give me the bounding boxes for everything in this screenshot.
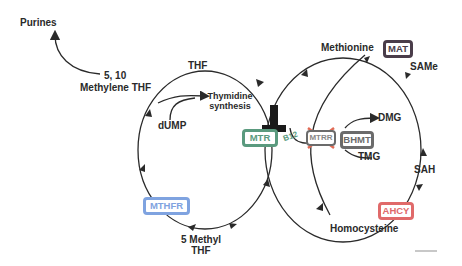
enzyme-bhmt: BHMT <box>340 131 374 149</box>
methylene-thf-label: Methylene THF <box>80 82 151 93</box>
homocysteine-label: Homocysteine <box>330 223 398 234</box>
sah-label: SAH <box>414 164 435 175</box>
enzyme-mtr: MTR <box>242 129 278 147</box>
enzyme-mthfr: MTHFR <box>143 197 190 215</box>
thymidine-synthesis-label: Thymidine synthesis <box>200 91 260 111</box>
enzyme-mtrr-crossed: MTRR <box>306 130 336 146</box>
methylene-thf-number: 5, 10 <box>104 70 126 81</box>
enzyme-mat: MAT <box>383 40 413 58</box>
dump-label: dUMP <box>158 120 186 131</box>
dmg-label: DMG <box>378 112 401 123</box>
purines-label: Purines <box>20 17 57 28</box>
same-label: SAMe <box>410 61 438 72</box>
tmg-label: TMG <box>358 151 380 162</box>
methyl-thf-label: 5 Methyl THF <box>176 234 226 256</box>
thf-label: THF <box>188 60 207 71</box>
enzyme-ahcy: AHCY <box>378 202 414 220</box>
methionine-label: Methionine <box>321 42 374 53</box>
